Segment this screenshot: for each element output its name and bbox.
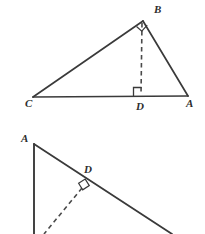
- geometry-figure-canvas: C D A B A D: [0, 0, 205, 234]
- vertex-label-d-bottom: D: [83, 163, 92, 175]
- canvas-background: [0, 0, 205, 234]
- vertex-label-b: B: [153, 3, 161, 15]
- vertex-label-a-top: A: [185, 97, 193, 109]
- vertex-label-d-top: D: [135, 100, 144, 112]
- vertex-label-a-bottom: A: [20, 132, 28, 144]
- segment-ca: [33, 96, 188, 97]
- vertex-label-c: C: [25, 97, 33, 109]
